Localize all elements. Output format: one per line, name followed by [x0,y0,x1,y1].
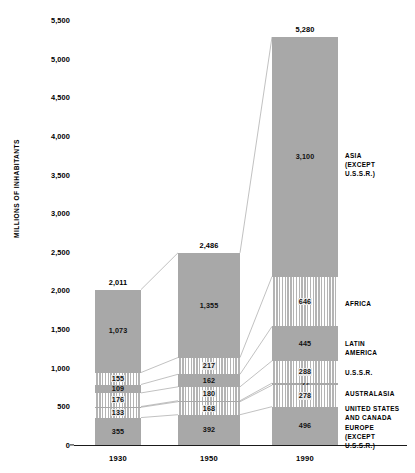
bar-segment: 1,073 [95,290,141,373]
bar-segment: 217 [178,358,240,375]
bar-segment-value: 162 [203,377,215,384]
stacked-bar-1990: 496278272884456463,1005,2801990 [272,37,338,445]
bar-segment: 278 [272,385,338,406]
bar-segment: 496 [272,407,338,445]
bar-segment: 288 [272,361,338,383]
legend-label-africa: AFRICA [345,300,371,309]
bar-segment: 646 [272,277,338,327]
y-tick-label: 3,000 [10,209,70,218]
legend-label-united-states-and-canada: UNITED STATES AND CANADA [345,405,399,423]
x-axis-label-1950: 1950 [178,454,240,463]
bar-segment: 27 [272,383,338,385]
bar-segment: 445 [272,326,338,360]
y-tick-label: 4,000 [10,131,70,140]
bar-segment: 109 [95,385,141,393]
bar-segment-value: 109 [112,385,124,392]
stacked-bar-1950: 3921681801622171,3552,4861950 [178,253,240,445]
bar-segment-value: 355 [112,428,124,435]
bar-segment-value: 27 [301,383,309,385]
bar-segment: 176 [95,393,141,407]
legend-label-asia-except-u-s-s-r: ASIA (EXCEPT U.S.S.R.) [345,152,375,178]
y-tick-label: 2,500 [10,247,70,256]
bar-segment-value: 133 [111,409,125,416]
y-tick-label: 3,500 [10,170,70,179]
bar-segment-value: 445 [299,340,311,347]
y-tick-label: 0 [10,441,70,450]
bar-segment: 133 [95,407,141,417]
bar-segment: 1,355 [178,253,240,358]
bar-segment: 155 [95,373,141,385]
bar-segment: 355 [95,418,141,445]
bar-segment-value: 496 [299,422,311,429]
x-axis-label-1930: 1930 [95,454,141,463]
population-stacked-bar-chart: MILLIONS OF INHABITANTS 5,5005,0004,5004… [0,0,415,473]
y-tick-label: 4,500 [10,93,70,102]
bar-segment-value: 217 [202,362,216,369]
y-tick-label: 1,000 [10,363,70,372]
y-tick-label: 1,500 [10,325,70,334]
bar-segment: 180 [178,387,240,401]
bar-segment: 392 [178,415,240,445]
stacked-bar-1930: 3551331761091551,0732,0111930 [95,290,141,445]
bar-segment: 168 [178,402,240,415]
x-axis-label-1990: 1990 [272,454,338,463]
legend-label-u-s-s-r: U.S.S.R. [345,369,373,378]
y-tick-label: 5,500 [10,16,70,25]
bar-segment-value: 278 [298,392,312,399]
y-tick-label: 5,000 [10,54,70,63]
legend-label-australasia: AUSTRALASIA [345,390,395,399]
y-axis-title: MILLIONS OF INHABITANTS [13,139,20,238]
bar-segment: 3,100 [272,37,338,277]
legend-label-europe-except-u-s-s-r: EUROPE (EXCEPT U.S.S.R.) [345,424,375,450]
bar-segment-value: 1,073 [109,327,128,334]
y-tick-label: 2,000 [10,286,70,295]
bar-segment-value: 168 [202,405,216,412]
bar-segment-value: 3,100 [296,153,315,160]
bar-segment: 162 [178,374,240,387]
bar-segment-value: 288 [298,368,312,375]
bar-total-label: 2,011 [95,278,141,287]
bar-total-label: 2,486 [178,241,240,250]
bar-segment-value: 176 [111,396,125,403]
y-axis-tick-labels: 5,5005,0004,5004,0003,5003,0002,5002,000… [24,0,70,473]
y-tick-label: 500 [10,402,70,411]
bar-segment-value: 646 [298,298,312,305]
bar-segment [178,401,240,402]
bar-total-label: 5,280 [272,25,338,34]
bar-segment-value: 180 [202,390,216,397]
bar-segment-value: 392 [203,426,215,433]
legend-label-latin-america: LATIN AMERICA [345,340,377,358]
bar-segment-value: 155 [111,375,125,382]
bar-segment-value: 1,355 [200,302,219,309]
